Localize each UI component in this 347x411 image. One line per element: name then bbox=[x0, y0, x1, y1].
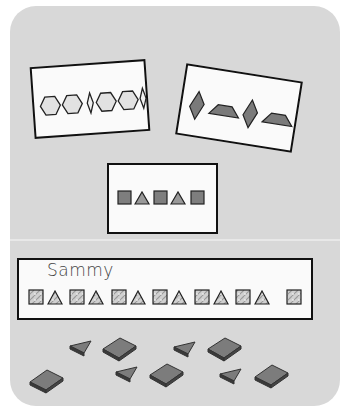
loose-square-piece bbox=[103, 338, 136, 361]
loose-triangle-piece bbox=[220, 369, 241, 384]
loose-square-piece bbox=[208, 338, 241, 361]
activity-board: Sammy bbox=[10, 6, 340, 406]
loose-square-piece bbox=[255, 365, 288, 388]
loose-square-piece bbox=[150, 364, 183, 387]
loose-square-piece bbox=[30, 370, 63, 393]
loose-triangle-piece bbox=[174, 342, 195, 357]
loose-triangle-piece bbox=[116, 367, 137, 382]
loose-pieces bbox=[10, 6, 340, 406]
loose-triangle-piece bbox=[70, 341, 91, 356]
